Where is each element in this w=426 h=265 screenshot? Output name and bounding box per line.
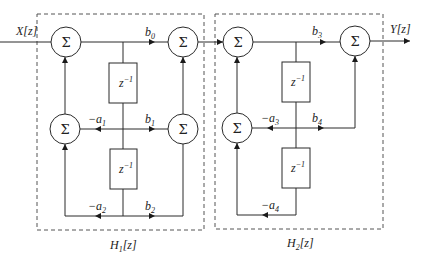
adder-label: Σ [60, 122, 69, 137]
coef-a3: −a3 [261, 111, 279, 127]
arrow-icon [95, 126, 101, 132]
coef-b1: b1 [145, 112, 155, 128]
adder-label: Σ [232, 121, 241, 136]
arrow-icon [352, 56, 358, 62]
adder-label: Σ [233, 35, 242, 50]
coef-a4: −a4 [261, 198, 279, 214]
arrow-icon [217, 39, 223, 45]
arrow-icon [234, 57, 240, 63]
adder-label: Σ [178, 122, 187, 137]
adder-label: Σ [350, 34, 359, 49]
coef-a1: −a1 [88, 112, 106, 128]
arrow-icon [404, 38, 410, 44]
coef-b4: b4 [312, 111, 322, 127]
arrow-icon [267, 125, 273, 131]
arrow-icon [62, 57, 68, 63]
adder-label: Σ [61, 35, 70, 50]
coef-b0: b0 [145, 25, 155, 41]
arrow-icon [262, 212, 268, 218]
coef-a2: −a2 [88, 199, 106, 215]
coef-b2: b2 [145, 199, 155, 215]
section-h2-label: H2[z] [286, 236, 314, 252]
arrow-icon [234, 143, 240, 149]
block-diagram: Σ Σ Σ Σ Σ Σ Σ z−1 z−1 z−1 z−1 X[z] Y[z] … [0, 0, 426, 265]
input-label: X[z] [15, 24, 38, 38]
coef-b3: b3 [312, 24, 322, 40]
output-label: Y[z] [390, 22, 411, 36]
arrow-icon [95, 213, 101, 219]
adder-label: Σ [178, 35, 187, 50]
section-h1-label: H1[z] [109, 238, 137, 254]
arrow-icon [62, 144, 68, 150]
arrow-icon [180, 57, 186, 63]
